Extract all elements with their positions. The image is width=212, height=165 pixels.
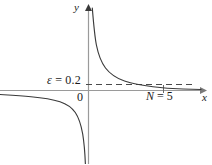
epsilon-label: ε = 0.2: [47, 74, 81, 86]
n-symbol: N: [146, 89, 154, 103]
origin-label: 0: [77, 91, 83, 103]
graph-canvas: [0, 0, 212, 164]
n-value: 5: [167, 89, 173, 103]
x-axis-label: x: [202, 92, 207, 103]
epsilon-value: 0.2: [65, 73, 81, 87]
epsilon-equals-sign: =: [52, 73, 65, 87]
y-axis-arrow-icon: [85, 4, 92, 11]
curve-branch-quadrant-three: [0, 95, 85, 165]
curve-branch-quadrant-one: [92, 8, 201, 90]
limit-figure: ε = 0.2 N = 5 0 x y: [0, 0, 212, 164]
n-equals-sign: =: [154, 89, 167, 103]
y-axis-label: y: [74, 2, 79, 13]
n-label: N = 5: [146, 90, 173, 102]
